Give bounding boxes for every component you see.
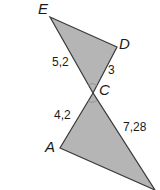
- side-label-ac: 4,2: [54, 108, 71, 122]
- vertex-label-a: A: [44, 138, 55, 155]
- lower-triangle: [60, 93, 155, 190]
- side-label-cb: 7,28: [123, 120, 147, 134]
- vertex-label-c: C: [99, 81, 110, 98]
- vertex-label-e: E: [38, 0, 49, 17]
- side-label-ec: 5,2: [52, 55, 69, 69]
- vertex-label-d: D: [119, 35, 130, 52]
- geometry-diagram: E D C A 5,2 3 4,2 7,28: [0, 0, 160, 190]
- side-label-dc: 3: [108, 63, 115, 77]
